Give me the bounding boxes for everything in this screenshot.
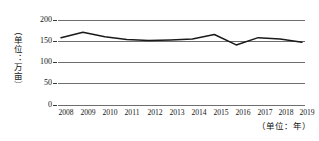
- y-tickmark-200: [53, 20, 57, 21]
- y-tickmark-150: [53, 41, 57, 42]
- series-polyline: [61, 32, 302, 45]
- x-tick-label-2017: 2017: [257, 108, 272, 117]
- x-tick-label-2018: 2018: [278, 108, 293, 117]
- series-line-area: [58, 14, 305, 106]
- x-tick-label-2019: 2019: [299, 108, 314, 117]
- x-tick-label-2013: 2013: [169, 108, 184, 117]
- x-tick-label-2008: 2008: [58, 108, 73, 117]
- y-tick-label-50: 50: [44, 79, 52, 87]
- plot-area: [58, 14, 305, 106]
- y-tick-label-100: 100: [40, 58, 52, 66]
- y-tickmark-100: [53, 62, 57, 63]
- y-tick-label-200: 200: [40, 16, 52, 24]
- x-tick-label-2009: 2009: [80, 108, 95, 117]
- x-tick-label-2015: 2015: [213, 108, 228, 117]
- y-tickmark-50: [53, 83, 57, 84]
- x-tick-label-2010: 2010: [102, 108, 117, 117]
- line-chart: （单位：万亩） 200 150 100 50 0 2008 2009 2010 …: [0, 0, 319, 141]
- y-tickmark-0: [53, 105, 57, 106]
- x-axis-tick-labels: 2008 2009 2010 2011 2012 2013 2014 2015 …: [50, 108, 312, 120]
- x-tick-label-2014: 2014: [191, 108, 206, 117]
- x-tick-label-2012: 2012: [147, 108, 162, 117]
- x-tick-label-2016: 2016: [235, 108, 250, 117]
- x-axis-title: （单位：年）: [257, 121, 311, 131]
- y-axis-tick-labels: 200 150 100 50 0: [26, 0, 52, 141]
- y-tick-label-150: 150: [40, 37, 52, 45]
- x-tick-label-2011: 2011: [125, 108, 140, 117]
- y-axis-title: （单位：万亩）: [8, 12, 24, 104]
